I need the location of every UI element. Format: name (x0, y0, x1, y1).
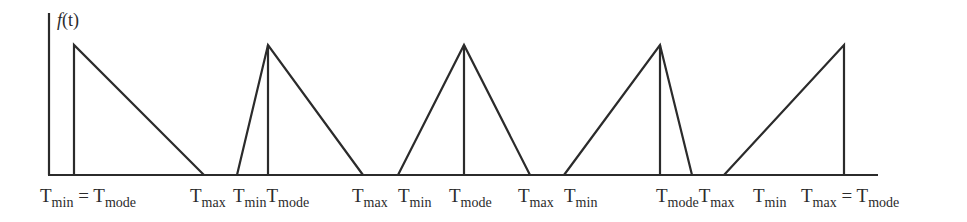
x-label: Tmin = Tmode (40, 186, 136, 210)
x-label: Tmode (449, 186, 492, 210)
y-label-arg: (t) (62, 10, 79, 30)
x-label: Tmax = Tmode (801, 186, 899, 210)
y-axis-label: f(t) (57, 10, 79, 31)
x-label: Tmin (398, 186, 431, 210)
triangle-4 (564, 45, 692, 175)
x-label: Tmin (564, 186, 597, 210)
x-label: Tmax (190, 186, 226, 210)
x-label: Tmax (518, 186, 554, 210)
x-label: Tmax (352, 186, 388, 210)
x-label: Tmin (753, 186, 786, 210)
triangle-1 (74, 45, 204, 175)
triangle-2 (237, 45, 363, 175)
x-label: TmodeTmax (656, 186, 734, 210)
x-label: TminTmode (233, 186, 309, 210)
triangle-5 (724, 45, 844, 175)
